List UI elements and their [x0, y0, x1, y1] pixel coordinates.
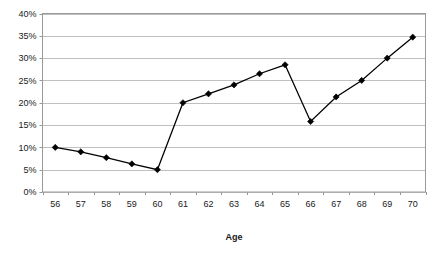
x-tick-label: 57	[76, 199, 86, 209]
x-tick-label: 62	[203, 199, 213, 209]
x-tick-label: 61	[178, 199, 188, 209]
y-tick-label: 30%	[18, 53, 36, 63]
y-tick-label: 35%	[18, 31, 36, 41]
x-tick-label: 58	[101, 199, 111, 209]
x-tick-label: 70	[408, 199, 418, 209]
y-tick-label: 25%	[18, 76, 36, 86]
x-tick-label: 68	[357, 199, 367, 209]
x-tick-label: 67	[331, 199, 341, 209]
x-tick-label: 59	[127, 199, 137, 209]
y-tick-label: 10%	[18, 143, 36, 153]
x-axis-title: Age	[225, 232, 242, 242]
x-tick-label: 63	[229, 199, 239, 209]
y-tick-label: 40%	[18, 9, 36, 19]
x-tick-label: 64	[255, 199, 265, 209]
x-tick-label: 65	[280, 199, 290, 209]
chart-background	[0, 0, 437, 253]
line-chart: 0%5%10%15%20%25%30%35%40% 56575859606162…	[0, 0, 437, 253]
x-axis-tick-labels: 565758596061626364656667686970	[50, 199, 417, 209]
x-tick-label: 60	[152, 199, 162, 209]
x-tick-label: 69	[382, 199, 392, 209]
y-tick-label: 20%	[18, 98, 36, 108]
x-tick-label: 56	[50, 199, 60, 209]
y-tick-label: 15%	[18, 120, 36, 130]
y-tick-label: 0%	[23, 187, 36, 197]
x-tick-label: 66	[306, 199, 316, 209]
chart-container: 0%5%10%15%20%25%30%35%40% 56575859606162…	[0, 0, 437, 253]
y-tick-label: 5%	[23, 165, 36, 175]
